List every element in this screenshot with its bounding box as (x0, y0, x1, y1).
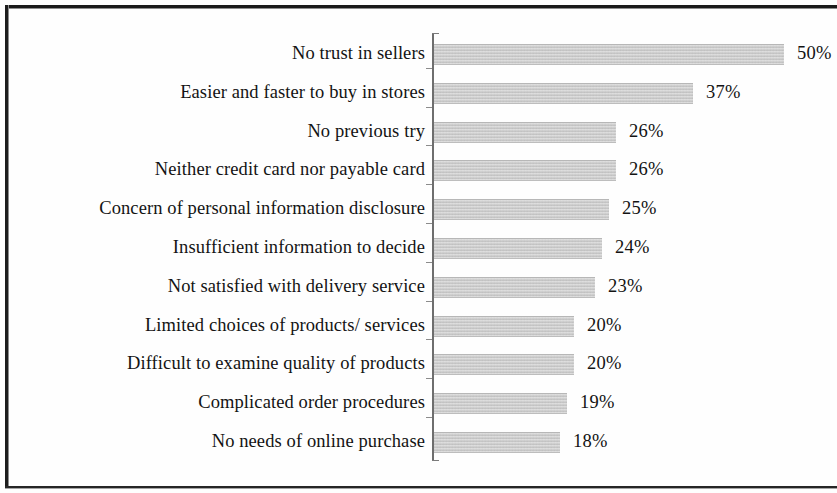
bar (434, 199, 609, 220)
bar (434, 44, 784, 65)
axis-tick (426, 301, 432, 302)
bar-chart-plot-area: No trust in sellers50%Easier and faster … (0, 0, 837, 493)
bar-value-label: 18% (573, 422, 608, 461)
bar-value-label: 19% (580, 383, 615, 422)
chart-row: Neither credit card nor payable card26% (0, 150, 837, 189)
category-label: Complicated order procedures (5, 383, 425, 422)
chart-row: Difficult to examine quality of products… (0, 344, 837, 383)
category-label: No needs of online purchase (5, 422, 425, 461)
axis-tick (426, 262, 432, 263)
chart-row: Insufficient information to decide24% (0, 228, 837, 267)
chart-row: No previous try26% (0, 112, 837, 151)
category-label: Concern of personal information disclosu… (5, 189, 425, 228)
bar (434, 393, 567, 414)
bar-value-label: 23% (608, 267, 643, 306)
chart-screenshot: No trust in sellers50%Easier and faster … (0, 0, 837, 493)
bar (434, 354, 574, 375)
axis-tick (426, 223, 432, 224)
chart-row: Complicated order procedures19% (0, 383, 837, 422)
chart-row: Not satisfied with delivery service23% (0, 267, 837, 306)
bar (434, 122, 616, 143)
axis-tick (426, 68, 432, 69)
bar-value-label: 20% (587, 344, 622, 383)
axis-tick (426, 107, 432, 108)
category-label: Limited choices of products/ services (5, 306, 425, 345)
bar (434, 83, 693, 104)
bar-value-label: 26% (629, 112, 664, 151)
bar (434, 160, 616, 181)
bar (434, 238, 602, 259)
category-label: Easier and faster to buy in stores (5, 73, 425, 112)
axis-tick (426, 184, 432, 185)
bar (434, 432, 560, 453)
category-label: Neither credit card nor payable card (5, 150, 425, 189)
bar-value-label: 20% (587, 306, 622, 345)
axis-tick (426, 417, 432, 418)
bar-value-label: 37% (706, 73, 741, 112)
axis-tick (426, 145, 432, 146)
bar (434, 277, 595, 298)
category-label: No trust in sellers (5, 34, 425, 73)
chart-row: Easier and faster to buy in stores37% (0, 73, 837, 112)
category-label: Insufficient information to decide (5, 228, 425, 267)
category-label: Difficult to examine quality of products (5, 344, 425, 383)
chart-row: Limited choices of products/ services20% (0, 306, 837, 345)
axis-tick (426, 339, 432, 340)
bar-value-label: 25% (622, 189, 657, 228)
bar-value-label: 26% (629, 150, 664, 189)
bar-value-label: 24% (615, 228, 650, 267)
chart-row: No trust in sellers50% (0, 34, 837, 73)
axis-tick (426, 378, 432, 379)
chart-row: No needs of online purchase18% (0, 422, 837, 461)
bar-value-label: 50% (797, 34, 832, 73)
bar (434, 316, 574, 337)
chart-row: Concern of personal information disclosu… (0, 189, 837, 228)
category-label: Not satisfied with delivery service (5, 267, 425, 306)
category-label: No previous try (5, 112, 425, 151)
